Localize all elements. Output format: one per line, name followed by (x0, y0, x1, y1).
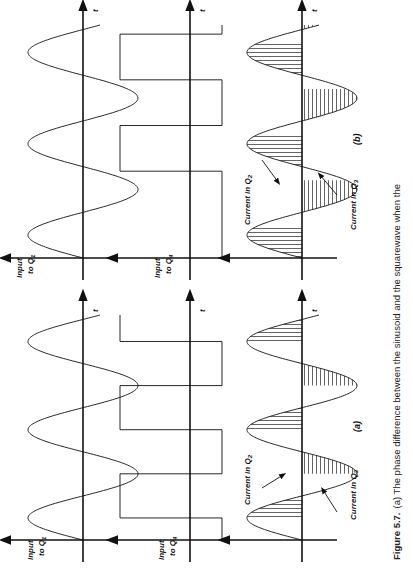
svg-text:Current in Q2: Current in Q2 (243, 174, 253, 225)
svg-text:Input: Input (157, 540, 166, 560)
svg-text:to Q4: to Q4 (164, 254, 174, 274)
svg-text:t: t (91, 309, 100, 312)
annotation-current-q2-a: Current in Q2 (243, 454, 283, 505)
svg-text:to Q4: to Q4 (168, 536, 178, 556)
annotation-current-q2-b: Current in Q2 (243, 160, 278, 225)
svg-text:(b): (b) (352, 134, 362, 146)
svg-text:t: t (198, 309, 207, 312)
panel-label-b: (b) (352, 134, 362, 146)
svg-text:Current in Q3: Current in Q3 (349, 469, 359, 520)
svg-text:Input: Input (26, 540, 35, 560)
svg-text:Input: Input (15, 258, 24, 278)
panel-label-a: (a) (352, 421, 362, 432)
figure-5-7: (b) (a) Figure 5.7.(a) The phase differe… (0, 0, 413, 568)
svg-text:Current in Q2: Current in Q2 (243, 454, 253, 505)
plot-area (5, 5, 357, 562)
figure-caption: Figure 5.7.(a) The phase difference betw… (391, 184, 402, 560)
svg-text:t: t (310, 309, 319, 312)
svg-text:t: t (310, 9, 319, 12)
svg-text:to Q1: to Q1 (37, 536, 47, 556)
svg-text:t: t (91, 9, 100, 12)
svg-text:Current in Q3: Current in Q3 (349, 179, 359, 230)
svg-text:t: t (198, 9, 207, 12)
svg-text:to Q1: to Q1 (26, 254, 36, 274)
svg-text:Input: Input (153, 258, 162, 278)
svg-text:(a): (a) (352, 421, 362, 432)
annotation-current-q3-a: Current in Q3 (323, 469, 359, 520)
